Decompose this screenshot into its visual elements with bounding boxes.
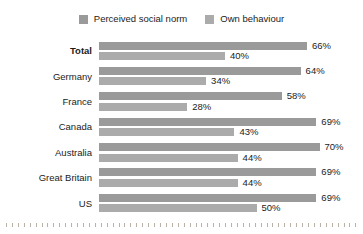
axis-tick [296, 223, 297, 227]
bar-row[interactable]: 58% [99, 92, 306, 100]
axis-tick [249, 223, 250, 227]
legend-entry[interactable]: Perceived social norm [79, 14, 187, 24]
axis-tick [83, 223, 84, 227]
axis-tick [219, 223, 220, 227]
axis-tick [272, 223, 273, 227]
legend-entry[interactable]: Own behaviour [205, 14, 284, 24]
bar-value-label: 44% [243, 178, 262, 188]
axis-tick [36, 223, 37, 227]
axis-tick [320, 223, 321, 227]
axis-tick [278, 223, 279, 227]
axis-tick [237, 223, 238, 227]
axis-tick [148, 223, 149, 227]
bar[interactable] [99, 67, 301, 75]
axis-tick [101, 223, 102, 227]
legend-label: Perceived social norm [94, 14, 187, 24]
category-label: Great Britain [0, 165, 92, 190]
axis-tick [326, 223, 327, 227]
bar-row[interactable]: 70% [99, 143, 344, 151]
bar-row[interactable]: 64% [99, 67, 325, 75]
bar[interactable] [99, 77, 206, 85]
axis-tick [190, 223, 191, 227]
bar-value-label: 28% [192, 102, 211, 112]
axis-baseline-ticks [6, 223, 357, 228]
bar[interactable] [99, 103, 187, 111]
bar-row[interactable]: 28% [99, 103, 211, 111]
bar-group: France58%28% [0, 89, 363, 114]
bar-row[interactable]: 34% [99, 77, 230, 85]
bar-value-label: 69% [321, 117, 340, 127]
axis-tick [18, 223, 19, 227]
axis-tick [172, 223, 173, 227]
bar-group: Great Britain69%44% [0, 165, 363, 190]
axis-tick [154, 223, 155, 227]
bar-group: US69%50% [0, 190, 363, 215]
bar-row[interactable]: 69% [99, 118, 340, 126]
bar-value-label: 40% [230, 51, 249, 61]
axis-tick [107, 223, 108, 227]
axis-tick [71, 223, 72, 227]
axis-tick [308, 223, 309, 227]
axis-tick [302, 223, 303, 227]
category-label: Australia [0, 140, 92, 165]
category-label: Germany [0, 63, 92, 88]
axis-tick [6, 223, 7, 227]
bar-group: Canada69%43% [0, 114, 363, 139]
bar-row[interactable]: 40% [99, 52, 249, 60]
axis-tick [142, 223, 143, 227]
axis-tick [196, 223, 197, 227]
bar-row[interactable]: 44% [99, 154, 262, 162]
legend-label: Own behaviour [220, 14, 284, 24]
chart-legend: Perceived social normOwn behaviour [0, 14, 363, 24]
bar[interactable] [99, 128, 234, 136]
bar[interactable] [99, 52, 225, 60]
axis-tick [89, 223, 90, 227]
axis-tick [59, 223, 60, 227]
axis-tick [130, 223, 131, 227]
axis-tick [201, 223, 202, 227]
bar-group: Germany64%34% [0, 63, 363, 88]
axis-tick [12, 223, 13, 227]
axis-tick [213, 223, 214, 227]
axis-tick [24, 223, 25, 227]
category-label: Canada [0, 114, 92, 139]
axis-tick [53, 223, 54, 227]
bar[interactable] [99, 42, 307, 50]
axis-tick [267, 223, 268, 227]
bar-group: Australia70%44% [0, 140, 363, 165]
axis-tick [290, 223, 291, 227]
bar[interactable] [99, 194, 316, 202]
bar-group: Total66%40% [0, 38, 363, 63]
bar-row[interactable]: 69% [99, 168, 340, 176]
category-label: France [0, 89, 92, 114]
bar-value-label: 69% [321, 167, 340, 177]
axis-tick [95, 223, 96, 227]
axis-tick [178, 223, 179, 227]
bar[interactable] [99, 204, 257, 212]
bar[interactable] [99, 118, 316, 126]
bar-row[interactable]: 44% [99, 179, 262, 187]
axis-tick [284, 223, 285, 227]
axis-tick [30, 223, 31, 227]
square-swatch-icon [205, 15, 214, 24]
axis-tick [160, 223, 161, 227]
bar-value-label: 66% [312, 41, 331, 51]
bar[interactable] [99, 168, 316, 176]
bar[interactable] [99, 179, 238, 187]
axis-tick [261, 223, 262, 227]
axis-tick [314, 223, 315, 227]
bar[interactable] [99, 143, 320, 151]
bar-row[interactable]: 43% [99, 128, 258, 136]
axis-tick [47, 223, 48, 227]
axis-tick [65, 223, 66, 227]
bar[interactable] [99, 154, 238, 162]
bar-value-label: 43% [239, 127, 258, 137]
bar-row[interactable]: 69% [99, 194, 340, 202]
bar-row[interactable]: 50% [99, 204, 281, 212]
bar-value-label: 50% [262, 203, 281, 213]
bar-row[interactable]: 66% [99, 42, 331, 50]
axis-tick [113, 223, 114, 227]
bar[interactable] [99, 92, 282, 100]
axis-tick [338, 223, 339, 227]
bar-value-label: 70% [325, 142, 344, 152]
